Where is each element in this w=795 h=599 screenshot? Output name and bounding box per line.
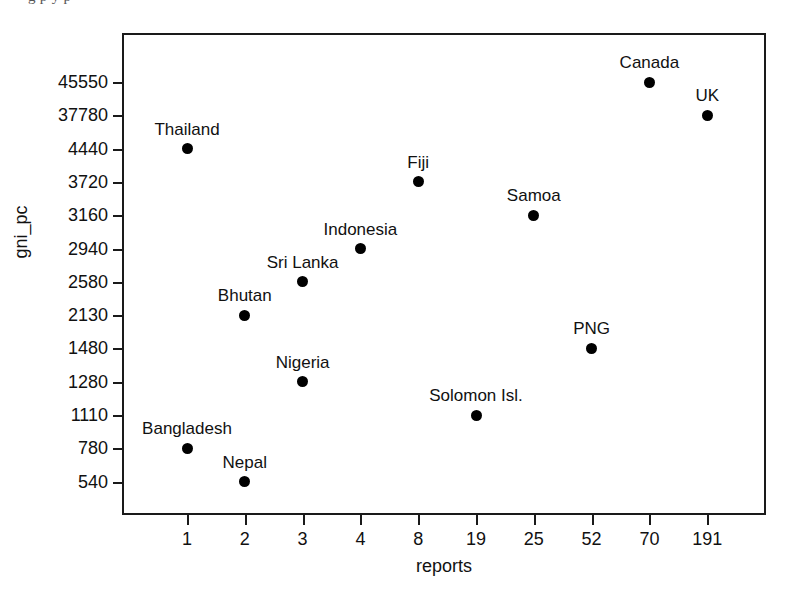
y-axis-tick-label: 37780	[58, 105, 108, 126]
x-axis-title: reports	[122, 556, 766, 577]
y-axis-tick-label: 2130	[68, 305, 108, 326]
y-axis-tick	[113, 282, 122, 284]
x-axis-tick	[245, 515, 247, 525]
y-axis-tick	[113, 448, 122, 450]
y-axis-tick	[113, 149, 122, 151]
x-axis-tick	[534, 515, 536, 525]
x-axis-tick-label: 52	[582, 529, 602, 550]
x-axis-tick	[360, 515, 362, 525]
data-point[interactable]	[644, 77, 655, 88]
y-axis-tick-label: 540	[78, 471, 108, 492]
y-axis-tick	[113, 348, 122, 350]
y-axis-tick	[113, 315, 122, 317]
y-axis-tick	[113, 215, 122, 217]
y-axis-tick	[113, 115, 122, 117]
y-axis-tick	[113, 482, 122, 484]
x-axis-tick-label: 19	[466, 529, 486, 550]
y-axis-tick-label: 3720	[68, 171, 108, 192]
y-axis-tick-label: 4440	[68, 138, 108, 159]
data-point[interactable]	[586, 343, 597, 354]
y-axis-tick	[113, 182, 122, 184]
x-axis-tick	[707, 515, 709, 525]
y-axis-tick-label: 3160	[68, 205, 108, 226]
data-point[interactable]	[471, 410, 482, 421]
y-axis-tick	[113, 82, 122, 84]
x-axis-tick	[418, 515, 420, 525]
x-axis-tick-label: 4	[355, 529, 365, 550]
y-axis-tick-label: 1480	[68, 338, 108, 359]
data-point-label: Nepal	[223, 454, 267, 471]
y-axis-tick-label: 1280	[68, 371, 108, 392]
data-point[interactable]	[528, 210, 539, 221]
data-point-label: Thailand	[154, 121, 219, 138]
data-point[interactable]	[297, 276, 308, 287]
x-axis-tick	[187, 515, 189, 525]
y-axis-tick-label: 2580	[68, 271, 108, 292]
y-axis-tick-label-column: 4555037780444037203160294025802130148012…	[0, 33, 122, 515]
data-point[interactable]	[182, 443, 193, 454]
x-axis-tick-label: 2	[240, 529, 250, 550]
y-axis-tick-label: 780	[78, 438, 108, 459]
data-point[interactable]	[182, 143, 193, 154]
data-point-label: Solomon Isl.	[429, 387, 523, 404]
y-axis-title: gni_pc	[11, 205, 32, 258]
data-point[interactable]	[355, 243, 366, 254]
data-point[interactable]	[239, 310, 250, 321]
y-axis-tick	[113, 382, 122, 384]
x-axis-tick	[476, 515, 478, 525]
data-point-label: Fiji	[407, 154, 429, 171]
data-point[interactable]	[239, 476, 250, 487]
y-axis-tick-label: 45550	[58, 72, 108, 93]
data-point-label: UK	[695, 87, 719, 104]
x-axis-tick	[303, 515, 305, 525]
x-axis-tick-label: 191	[692, 529, 722, 550]
scatter-plot-figure: g p y p 45550377804440372031602940258021…	[0, 0, 795, 599]
clipped-caption-text: g p y p	[28, 0, 71, 4]
x-axis-tick-label: 1	[182, 529, 192, 550]
data-point-label: Sri Lanka	[267, 254, 339, 271]
data-point-label: Bhutan	[218, 287, 272, 304]
data-point-label: Canada	[620, 54, 680, 71]
clipped-caption-sliver: g p y p	[0, 0, 795, 9]
data-point[interactable]	[413, 176, 424, 187]
x-axis-tick-label: 70	[639, 529, 659, 550]
data-point[interactable]	[702, 110, 713, 121]
data-point-label: Samoa	[507, 187, 561, 204]
y-axis-tick	[113, 415, 122, 417]
x-axis-tick	[649, 515, 651, 525]
data-point-label: PNG	[573, 320, 610, 337]
plot-data-area: 1234819255270191 CanadaUKThailandFijiSam…	[122, 33, 766, 515]
x-axis-tick-label: 3	[298, 529, 308, 550]
x-axis-tick	[592, 515, 594, 525]
y-axis-tick-label: 2940	[68, 238, 108, 259]
data-point[interactable]	[297, 376, 308, 387]
x-axis-tick-label: 25	[524, 529, 544, 550]
data-point-label: Bangladesh	[142, 420, 232, 437]
y-axis-tick-label: 1110	[71, 405, 108, 426]
data-point-label: Indonesia	[324, 221, 398, 238]
x-axis-tick-label: 8	[413, 529, 423, 550]
y-axis-tick	[113, 249, 122, 251]
data-point-label: Nigeria	[276, 354, 330, 371]
